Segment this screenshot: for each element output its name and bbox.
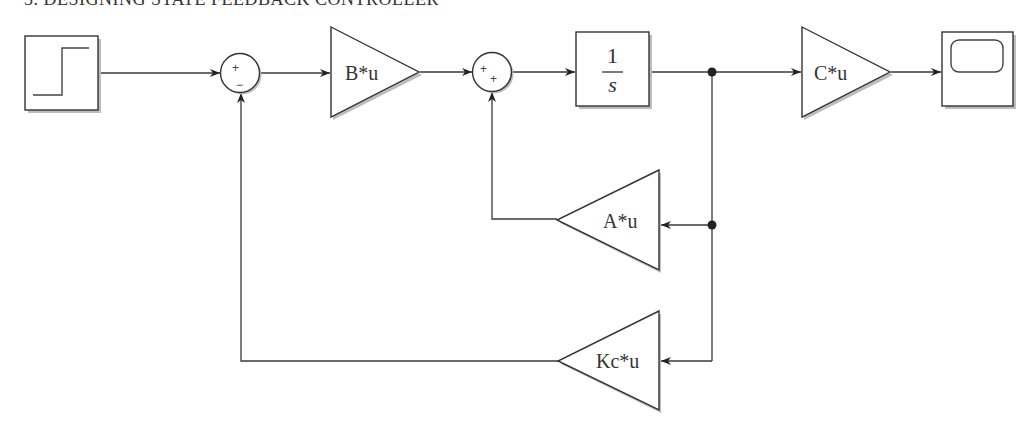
sum-block-1[interactable]: + −: [221, 54, 262, 95]
branch-point-middle: [708, 221, 717, 230]
sum1-sign-minus: −: [236, 78, 243, 92]
gain-kc-label: Kc*u: [596, 350, 639, 372]
gain-c-label: C*u: [814, 62, 847, 84]
sum2-sign-plus-1: +: [480, 62, 487, 76]
gain-block-c[interactable]: C*u: [802, 27, 893, 120]
gain-b-label: B*u: [345, 62, 378, 84]
step-block[interactable]: [25, 36, 101, 113]
wire-gain-a-to-sum2[interactable]: [492, 92, 557, 219]
gain-block-kc[interactable]: Kc*u: [558, 311, 661, 413]
integrator-denominator: s: [608, 72, 617, 97]
sum-block-2[interactable]: + +: [473, 53, 514, 94]
wire-gain-kc-to-sum1[interactable]: [241, 93, 558, 361]
gain-a-label: A*u: [603, 210, 637, 232]
sum1-sign-plus: +: [232, 61, 239, 75]
branch-point-top: [708, 68, 717, 77]
integrator-block[interactable]: 1 s: [576, 32, 652, 109]
gain-block-a[interactable]: A*u: [557, 170, 661, 273]
gain-block-b[interactable]: B*u: [331, 27, 422, 120]
scope-block[interactable]: [942, 32, 1016, 109]
sum2-sign-plus-2: +: [490, 72, 497, 86]
integrator-numerator: 1: [607, 43, 618, 68]
